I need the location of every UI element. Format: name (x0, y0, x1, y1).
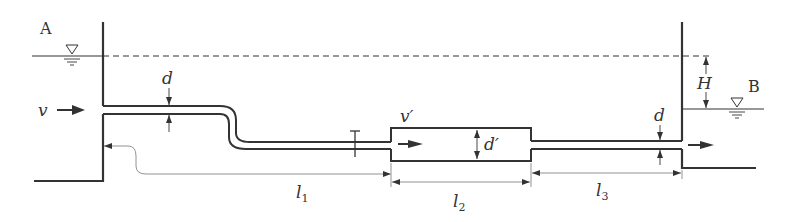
pipe-section-1 (103, 106, 391, 149)
length-2-label: l2 (453, 191, 465, 214)
pipe-section-3: d (531, 105, 682, 165)
length-2-dimension: l2 (392, 182, 530, 214)
head-difference-label: H (696, 73, 713, 93)
outlet-flow-arrow (688, 141, 714, 149)
tank-b-label: B (748, 77, 760, 96)
tank-a-label: A (39, 19, 52, 38)
outlet-diameter-label: d (654, 105, 665, 125)
tank-b-wall-lower (682, 149, 756, 168)
free-surface-b-icon (729, 98, 745, 118)
length-1-label: l1 (296, 182, 308, 205)
length-1-dimension: l1 (104, 143, 391, 205)
pipe-flow-diagram: A v d v′ d′ d (0, 0, 796, 222)
length-3-label: l3 (596, 180, 608, 203)
arrow-right-icon (408, 140, 423, 148)
inlet-velocity-label: v (38, 100, 48, 120)
expanded-upper-wall (391, 128, 531, 142)
valve-icon (350, 131, 360, 157)
arrow-right-icon (72, 105, 85, 115)
pipe-1-upper-wall (103, 106, 391, 142)
expanded-velocity-label: v′ (400, 106, 414, 126)
length-3-dimension: l3 (532, 173, 681, 203)
expanded-diameter-label: d′ (484, 134, 499, 154)
inlet-diameter-label: d (162, 68, 173, 88)
expanded-lower-wall (391, 149, 531, 161)
pipe-section-2-expanded: v′ d′ (391, 106, 531, 161)
tank-a-wall-lower (34, 114, 103, 181)
pipe-1-lower-wall (103, 114, 391, 149)
tank-b: B H (682, 22, 764, 168)
free-surface-a-icon (64, 45, 80, 65)
inlet-diameter-dimension: d (162, 68, 173, 132)
inlet-flow-arrow: v (38, 100, 85, 120)
arrow-right-icon (700, 141, 714, 149)
